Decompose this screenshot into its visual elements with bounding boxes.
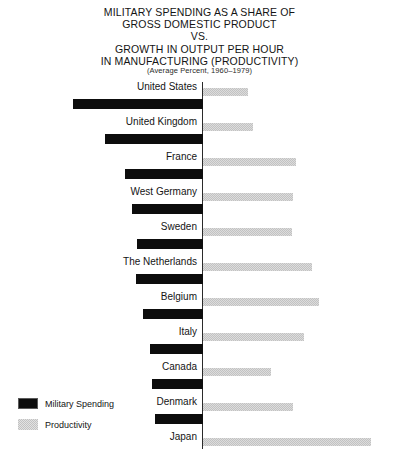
bar-row: France xyxy=(0,152,399,187)
title-line-3: VS. xyxy=(0,30,399,42)
productivity-bar xyxy=(203,298,319,306)
military-spending-bar xyxy=(143,309,203,319)
military-spending-bar xyxy=(125,169,203,179)
row-label: Japan xyxy=(167,430,200,443)
chart-legend: Military Spending Productivity xyxy=(18,395,168,437)
bar-row: Sweden xyxy=(0,222,399,257)
productivity-bar xyxy=(203,403,293,411)
bar-row: United Kingdom xyxy=(0,117,399,152)
row-label: Italy xyxy=(176,325,200,338)
chart-title: MILITARY SPENDING AS A SHARE OF GROSS DO… xyxy=(0,6,399,67)
military-spending-bar xyxy=(150,344,203,354)
row-label: Canada xyxy=(159,360,200,373)
military-spending-bar xyxy=(136,274,203,284)
productivity-bar xyxy=(203,123,253,131)
bar-row: Italy xyxy=(0,327,399,362)
legend-swatch-productivity xyxy=(18,419,38,430)
title-line-4: GROWTH IN OUTPUT PER HOUR xyxy=(0,43,399,55)
plot-area: United StatesUnited KingdomFranceWest Ge… xyxy=(0,82,399,449)
military-spending-bar xyxy=(132,204,203,214)
military-spending-bar xyxy=(73,99,203,109)
legend-label-productivity: Productivity xyxy=(45,420,92,430)
row-label: France xyxy=(163,150,200,163)
productivity-bar xyxy=(203,193,293,201)
military-spending-bar xyxy=(105,134,203,144)
productivity-bar xyxy=(203,88,248,96)
row-label: West Germany xyxy=(128,185,201,198)
title-line-1: MILITARY SPENDING AS A SHARE OF xyxy=(0,6,399,18)
row-label: Belgium xyxy=(158,290,200,303)
productivity-bar xyxy=(203,263,312,271)
chart-page: MILITARY SPENDING AS A SHARE OF GROSS DO… xyxy=(0,0,399,449)
row-label: The Netherlands xyxy=(120,255,200,268)
legend-label-military-spending: Military Spending xyxy=(45,399,114,409)
bar-row: West Germany xyxy=(0,187,399,222)
productivity-bar xyxy=(203,368,271,376)
title-line-2: GROSS DOMESTIC PRODUCT xyxy=(0,18,399,30)
military-spending-bar xyxy=(137,239,203,249)
bar-row: Belgium xyxy=(0,292,399,327)
productivity-bar xyxy=(203,438,371,446)
legend-item-productivity: Productivity xyxy=(18,416,168,433)
bar-row: United States xyxy=(0,82,399,117)
bar-row: Canada xyxy=(0,362,399,397)
row-label: Sweden xyxy=(158,220,200,233)
row-label: United Kingdom xyxy=(123,115,200,128)
productivity-bar xyxy=(203,158,296,166)
legend-item-military-spending: Military Spending xyxy=(18,395,168,412)
chart-subtitle: (Average Percent, 1960–1979) xyxy=(0,66,399,75)
productivity-bar xyxy=(203,228,292,236)
legend-swatch-military-spending xyxy=(18,398,38,409)
productivity-bar xyxy=(203,333,304,341)
military-spending-bar xyxy=(152,379,203,389)
military-spending-bar xyxy=(155,414,203,424)
row-label: Denmark xyxy=(153,395,200,408)
row-label: United States xyxy=(134,80,200,93)
bar-row: The Netherlands xyxy=(0,257,399,292)
